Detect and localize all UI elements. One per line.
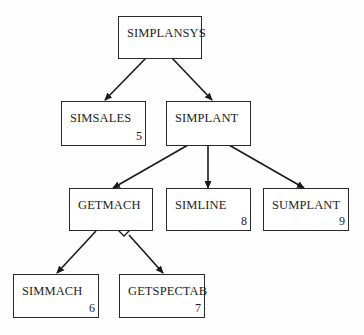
node-label: SIMLINE bbox=[175, 198, 226, 213]
node-simmach: SIMMACH 6 bbox=[13, 274, 99, 318]
node-label: GETMACH bbox=[78, 198, 141, 213]
arrow-getmach-simmach bbox=[57, 231, 96, 273]
node-simsales: SIMSALES 5 bbox=[61, 101, 146, 146]
node-getspectab: GETSPECTAB 7 bbox=[119, 274, 205, 318]
node-simline: SIMLINE 8 bbox=[166, 188, 251, 231]
node-sumplant: SUMPLANT 9 bbox=[263, 188, 349, 231]
arrow-simplansys-simsales bbox=[105, 58, 146, 100]
structure-chart: SIMPLANSYS SIMSALES 5 SIMPLANT GETMACH S… bbox=[0, 0, 364, 335]
arrow-simplansys-simplant bbox=[172, 58, 212, 100]
node-number: 7 bbox=[195, 301, 201, 316]
node-simplansys: SIMPLANSYS bbox=[118, 16, 202, 59]
arrow-simplant-getmach bbox=[113, 145, 188, 188]
node-label: SIMSALES bbox=[70, 111, 131, 126]
arrow-simplant-sumplant bbox=[229, 145, 304, 188]
node-number: 6 bbox=[89, 301, 95, 316]
node-number: 9 bbox=[339, 214, 345, 229]
node-label: SUMPLANT bbox=[272, 198, 340, 213]
node-getmach: GETMACH bbox=[69, 188, 153, 231]
node-label: GETSPECTAB bbox=[128, 284, 207, 299]
node-label: SIMMACH bbox=[22, 284, 82, 299]
node-label: SIMPLANSYS bbox=[127, 26, 206, 41]
node-number: 8 bbox=[241, 214, 247, 229]
node-label: SIMPLANT bbox=[175, 111, 238, 126]
arrow-getmach-getspectab bbox=[129, 235, 163, 273]
node-simplant: SIMPLANT bbox=[166, 101, 251, 146]
node-number: 5 bbox=[136, 129, 142, 144]
